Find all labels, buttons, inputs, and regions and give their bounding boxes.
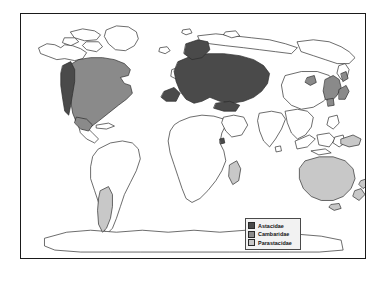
legend-item-astacidae: Astacidae [248,222,297,230]
range-astacidae-east-africa-dot [220,138,225,144]
landmass-iceland [159,47,170,54]
range-cambaridae-east-asia [323,75,341,101]
distribution-map-figure: Astacidae Cambaridae Parastacidae [0,0,388,286]
map-frame [20,13,366,259]
landmass-philippines [327,115,339,129]
legend-item-parastacidae: Parastacidae [248,239,297,247]
landmass-sri-lanka [276,146,282,152]
landmass-southeast-asia [285,109,313,139]
landmass-borneo [317,133,335,147]
legend-swatch-astacidae [248,222,255,229]
landmass-arctic-russia [198,34,297,54]
landmass-caribbean [97,123,115,129]
range-parastacidae-new-zealand-south [353,189,365,201]
legend-swatch-cambaridae [248,231,255,238]
legend-label-parastacidae: Parastacidae [258,239,292,247]
landmass-alaska [39,44,87,61]
landmass-arabia [222,115,248,137]
range-parastacidae-new-zealand-north [359,179,365,189]
legend-swatch-parastacidae [248,239,255,246]
landmass-india [258,111,286,147]
range-parastacidae-tasmania [329,203,341,210]
range-astacidae-iberia [161,87,180,101]
legend-item-cambaridae: Cambaridae [248,230,297,238]
range-cambaridae-korea [327,98,334,106]
world-map [21,14,365,258]
range-parastacidae-madagascar [229,161,241,185]
landmass-greenland [105,26,139,51]
range-parastacidae-australia [299,157,355,201]
landmass-svalbard [182,29,192,35]
landmass-ne-siberia [297,40,355,64]
landmass-java [311,149,331,155]
range-astacidae-europe [174,54,269,104]
landmass-africa [168,115,226,202]
legend-label-astacidae: Astacidae [258,222,284,230]
range-parastacidae-new-guinea [341,135,361,147]
map-legend: Astacidae Cambaridae Parastacidae [245,218,301,250]
legend-label-cambaridae: Cambaridae [258,230,289,238]
landmass-baffin [83,42,103,52]
